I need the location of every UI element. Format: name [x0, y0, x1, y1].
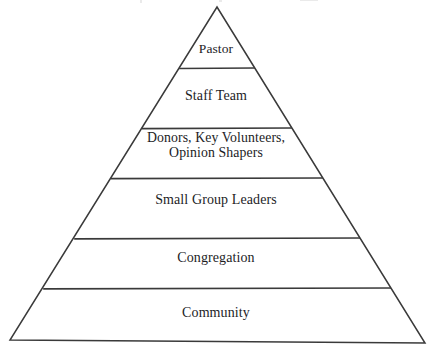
tier-divider-3: [111, 178, 323, 179]
tier-divider-4: [74, 238, 360, 239]
pyramid-diagram: Pastor Staff Team Donors, Key Volunteers…: [0, 0, 432, 358]
tier-divider-1: [179, 68, 255, 69]
tier-divider-5: [43, 288, 391, 289]
tier-divider-2: [142, 128, 292, 129]
pyramid-outline: [10, 7, 425, 343]
pyramid-outline-svg: [0, 0, 432, 358]
